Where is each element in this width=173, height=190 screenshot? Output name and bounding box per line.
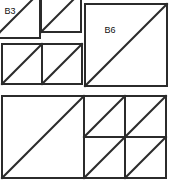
tile-br-4 — [125, 137, 166, 178]
tile-label-b6: B6 — [104, 25, 115, 35]
tile-tr-1: B6 — [85, 4, 167, 86]
tile-tl-1: B3 — [0, 0, 40, 38]
tile-br-1 — [84, 96, 125, 137]
tile-tl-3 — [2, 44, 42, 84]
tile-br-2 — [125, 96, 166, 137]
tile-bl-1 — [2, 96, 84, 178]
tile-tl-2 — [41, 0, 81, 32]
tile-tl-4 — [42, 44, 82, 84]
geometric-figure-canvas: B3B6 — [0, 0, 173, 190]
tile-label-b3: B3 — [4, 6, 15, 16]
tiling-diagram: B3B6 — [0, 0, 173, 190]
tile-br-3 — [84, 137, 125, 178]
